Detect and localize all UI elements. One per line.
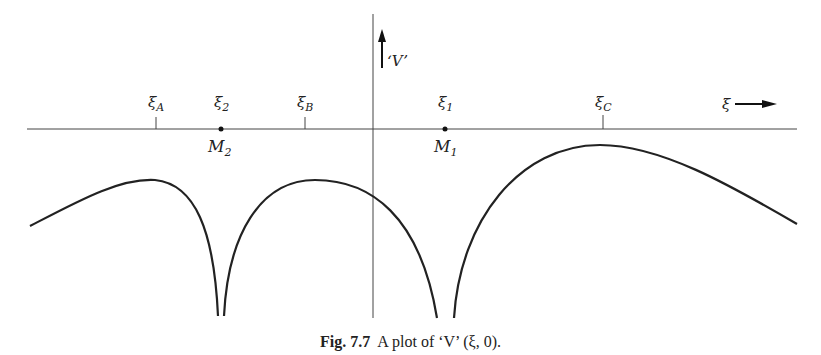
curve-branch-left [30, 180, 218, 316]
chart: ‘V’ ξ ξA ξ2 ξB ξ1 ξC M2 M1 [0, 0, 821, 330]
figure-caption: Fig. 7.7 A plot of ‘V’ (ξ, 0). [0, 333, 821, 351]
curve-branch-right [454, 145, 797, 318]
x-axis-label: ξ [722, 95, 731, 113]
point-M1 [443, 127, 448, 132]
tick-label-xi1: ξ1 [438, 93, 453, 114]
curve-branch-middle [224, 180, 437, 318]
tick-label-xiA: ξA [148, 93, 164, 114]
tick-label-xiB: ξB [297, 93, 313, 114]
caption-text: A plot of ‘V’ (ξ, 0). [377, 333, 501, 350]
point-M2 [219, 127, 224, 132]
y-axis-label: ‘V’ [387, 52, 408, 70]
x-arrow-head-icon [762, 100, 777, 108]
label-M1: M1 [433, 137, 457, 159]
label-M2: M2 [207, 137, 231, 159]
tick-label-xi2: ξ2 [214, 93, 229, 114]
caption-number: Fig. 7.7 [320, 333, 370, 350]
y-arrow-head-icon [378, 29, 386, 42]
tick-label-xiC: ξC [595, 93, 612, 114]
